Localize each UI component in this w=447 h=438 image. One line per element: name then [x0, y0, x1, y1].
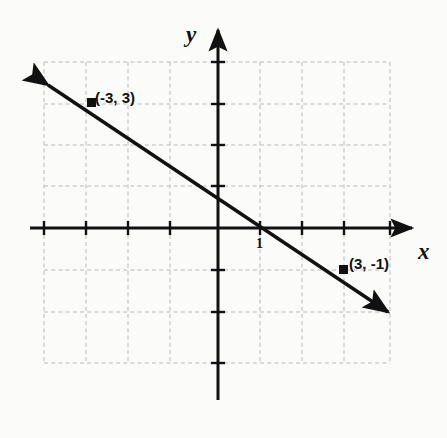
x-axis-tick-label-1: 1	[256, 236, 263, 252]
coordinate-plane	[0, 0, 447, 438]
data-point-marker	[339, 265, 348, 274]
graph-figure: y x 1 (-3, 3) (3, -1)	[0, 0, 447, 438]
figure-background	[0, 0, 447, 438]
point-label-b: (3, -1)	[349, 255, 389, 272]
y-axis-label: y	[186, 22, 196, 48]
point-label-a: (-3, 3)	[95, 89, 135, 106]
x-axis-label: x	[418, 239, 430, 265]
